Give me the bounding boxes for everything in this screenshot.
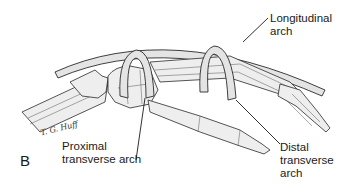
thumb-bones [148, 100, 270, 154]
leader-longitudinal [243, 18, 268, 42]
panel-label: B [20, 152, 30, 169]
label-longitudinal-arch: Longitudinal arch [270, 12, 332, 38]
label-distal-transverse-arch: Distal transverse arch [280, 141, 334, 180]
label-proximal-transverse-arch: Proximal transverse arch [62, 140, 141, 166]
